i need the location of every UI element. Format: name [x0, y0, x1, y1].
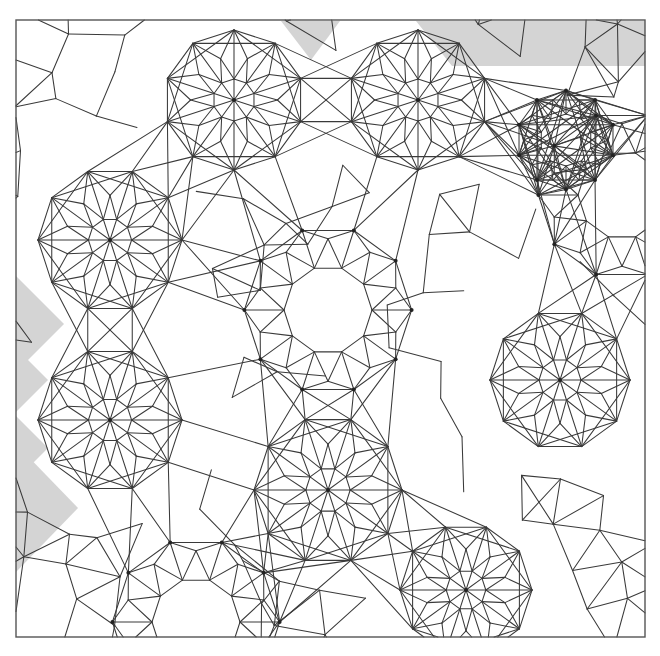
tiling-vertex: [168, 540, 172, 544]
tiling-vertex: [416, 98, 420, 102]
tiling-vertex: [593, 178, 597, 182]
tiling-vertex: [535, 178, 539, 182]
tiling-canvas: [0, 0, 660, 656]
tiling-vertex: [108, 418, 112, 422]
tiling-vertex: [594, 113, 598, 117]
tiling-vertex: [394, 259, 398, 263]
tiling-vertex: [220, 540, 224, 544]
tiling-vertex: [352, 388, 356, 392]
tiling-figure: [0, 0, 660, 656]
tiling-vertex: [108, 238, 112, 242]
tiling-vertex: [258, 357, 262, 361]
tiling-vertex: [410, 308, 414, 312]
tiling-vertex: [232, 98, 236, 102]
tiling-vertex: [535, 98, 539, 102]
tiling-vertex: [258, 259, 262, 263]
tiling-vertex: [300, 228, 304, 232]
tiling-vertex: [593, 98, 597, 102]
tiling-vertex: [611, 123, 615, 127]
tiling-vertex: [611, 153, 615, 157]
tiling-vertex: [300, 388, 304, 392]
tiling-vertex: [552, 242, 556, 246]
tiling-vertex: [517, 153, 521, 157]
tiling-vertex: [262, 571, 266, 575]
tiling-vertex: [126, 571, 130, 575]
tiling-vertex: [564, 89, 568, 93]
tiling-vertex: [564, 187, 568, 191]
figure-background: [0, 0, 660, 656]
tiling-vertex: [326, 488, 330, 492]
tiling-vertex: [242, 308, 246, 312]
tiling-vertex: [464, 588, 468, 592]
tiling-vertex: [110, 620, 114, 624]
tiling-vertex: [394, 357, 398, 361]
tiling-vertex: [517, 123, 521, 127]
tiling-vertex: [558, 378, 562, 382]
tiling-vertex: [278, 620, 282, 624]
tiling-vertex: [352, 228, 356, 232]
tiling-vertex: [594, 273, 598, 277]
tiling-vertex: [536, 193, 540, 197]
tiling-vertex: [552, 144, 556, 148]
